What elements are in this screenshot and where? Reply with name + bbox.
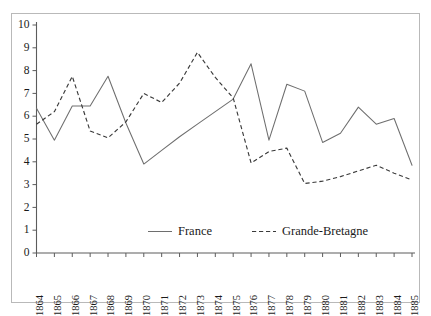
y-tick-label: 7 xyxy=(24,87,30,99)
x-tick-label: 1881 xyxy=(338,295,349,316)
y-tick-label: 6 xyxy=(24,109,30,121)
x-tick-label: 1870 xyxy=(141,295,152,316)
x-tick-label: 1866 xyxy=(70,295,81,316)
legend-label-grande-bretagne: Grande-Bretagne xyxy=(282,224,369,238)
y-tick-label: 5 xyxy=(24,132,30,144)
x-tick-label: 1879 xyxy=(302,295,313,316)
x-tick-label: 1882 xyxy=(356,295,367,316)
x-tick-label: 1877 xyxy=(266,295,277,316)
x-tick-label: 1871 xyxy=(159,295,170,316)
line-chart: 012345678910 186418651866186718681869187… xyxy=(0,0,431,316)
x-tick-label: 1875 xyxy=(231,295,242,316)
x-tick-label: 1880 xyxy=(320,295,331,316)
y-axis-tick-group: 012345678910 xyxy=(18,18,37,258)
chart-page: 012345678910 186418651866186718681869187… xyxy=(0,0,431,316)
y-tick-label: 8 xyxy=(24,64,30,76)
y-tick-label: 4 xyxy=(24,155,30,167)
x-tick-label: 1868 xyxy=(105,295,116,316)
x-axis-tick-group: 1864186518661867186818691870187118721873… xyxy=(34,253,421,316)
y-tick-label: 9 xyxy=(24,41,30,53)
x-tick-label: 1872 xyxy=(177,295,188,316)
x-tick-label: 1874 xyxy=(213,294,224,316)
series-line-france xyxy=(37,64,413,165)
series-line-grande-bretagne xyxy=(37,52,413,183)
y-tick-label: 0 xyxy=(24,246,30,258)
y-tick-label: 10 xyxy=(18,18,30,30)
x-tick-label: 1869 xyxy=(123,295,134,316)
legend-label-france: France xyxy=(178,224,212,238)
x-tick-label: 1878 xyxy=(284,295,295,316)
y-tick-label: 3 xyxy=(24,178,30,190)
x-tick-label: 1883 xyxy=(374,295,385,316)
x-tick-label: 1867 xyxy=(88,295,99,316)
chart-legend: FranceGrande-Bretagne xyxy=(148,224,369,238)
x-tick-label: 1864 xyxy=(34,294,45,316)
x-tick-label: 1876 xyxy=(248,295,259,316)
x-tick-label: 1884 xyxy=(392,294,403,316)
y-tick-label: 1 xyxy=(24,223,30,235)
x-tick-label: 1885 xyxy=(409,295,420,316)
x-tick-label: 1873 xyxy=(195,295,206,316)
x-tick-label: 1865 xyxy=(52,295,63,316)
y-tick-label: 2 xyxy=(24,201,30,213)
